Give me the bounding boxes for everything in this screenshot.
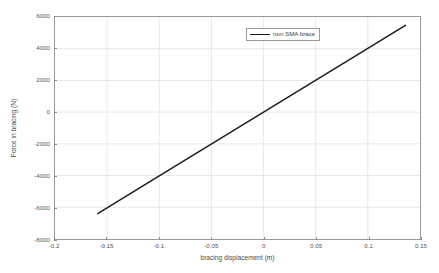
y-tick-mark xyxy=(54,208,57,209)
y-tick-label: -8000 xyxy=(34,237,50,243)
x-tick-mark xyxy=(211,237,212,240)
x-tick-mark xyxy=(316,237,317,240)
x-tick-mark xyxy=(159,237,160,240)
plot-area xyxy=(54,16,421,240)
y-tick-mark xyxy=(54,176,57,177)
y-tick-label: 2000 xyxy=(36,77,50,83)
x-tick-label: -0.05 xyxy=(204,243,218,249)
x-tick-label: -0.15 xyxy=(99,243,113,249)
legend-entry-label: non SMA brace xyxy=(273,31,315,37)
x-tick-label: -0.2 xyxy=(49,243,60,249)
x-tick-mark xyxy=(421,237,422,240)
figure-canvas: -8000-6000-4000-20000200040006000-0.2-0.… xyxy=(0,0,439,273)
legend-line-sample xyxy=(250,34,270,35)
x-tick-label: 0 xyxy=(262,243,265,249)
y-tick-label: -4000 xyxy=(34,173,50,179)
y-tick-label: -2000 xyxy=(34,141,50,147)
x-tick-label: 0.1 xyxy=(364,243,373,249)
y-tick-mark xyxy=(54,48,57,49)
data-line-0 xyxy=(98,25,406,213)
x-tick-label: -0.1 xyxy=(154,243,165,249)
x-tick-label: 0.05 xyxy=(310,243,322,249)
y-tick-mark xyxy=(54,16,57,17)
x-tick-mark xyxy=(369,237,370,240)
y-tick-label: 0 xyxy=(47,109,50,115)
x-tick-mark xyxy=(264,237,265,240)
legend-box: non SMA brace xyxy=(246,28,320,41)
x-tick-mark xyxy=(54,237,55,240)
x-tick-label: 0.15 xyxy=(415,243,427,249)
y-tick-label: -6000 xyxy=(34,205,50,211)
y-axis-title: Force in bracing (N) xyxy=(10,99,17,157)
x-axis-title: bracing displacement (m) xyxy=(54,254,421,261)
y-tick-mark xyxy=(54,144,57,145)
y-tick-label: 4000 xyxy=(36,45,50,51)
data-series-layer xyxy=(55,17,420,239)
y-tick-label: 6000 xyxy=(36,13,50,19)
y-tick-mark xyxy=(54,80,57,81)
x-tick-mark xyxy=(106,237,107,240)
y-tick-mark xyxy=(54,112,57,113)
y-tick-mark xyxy=(54,240,57,241)
